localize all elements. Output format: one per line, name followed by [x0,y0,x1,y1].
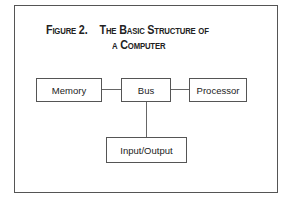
bus-label: Bus [138,85,154,96]
connector-bus-io [146,102,147,137]
io-box: Input/Output [106,137,187,163]
figure-title-line2: a Computer [112,39,165,52]
memory-label: Memory [52,85,86,96]
figure-title-line1: Figure 2.The Basic Structure of [46,24,209,37]
processor-box: Processor [189,78,247,102]
connector-bus-processor [171,89,189,90]
memory-box: Memory [36,78,102,102]
figure-title-text: The Basic Structure of [100,23,209,37]
bus-box: Bus [121,78,171,102]
io-label: Input/Output [120,145,172,156]
figure-label: Figure 2. [46,23,87,37]
processor-label: Processor [197,85,240,96]
connector-memory-bus [102,89,121,90]
